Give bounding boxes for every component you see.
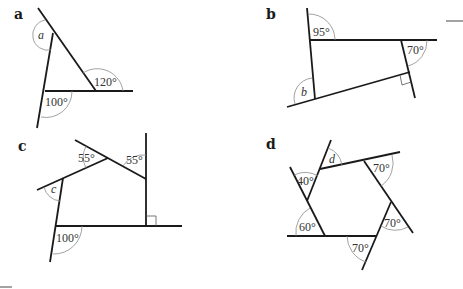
edge: [37, 158, 108, 190]
edge: [307, 140, 331, 201]
diagram-c: c 55° 55° c 100°: [18, 133, 182, 262]
part-label-a: a: [14, 6, 23, 22]
angle-label-70c: 70°: [384, 216, 401, 230]
angle-label-40: 40°: [297, 174, 314, 188]
part-label-c: c: [18, 138, 27, 154]
edge: [38, 8, 96, 91]
angle-label-d: d: [329, 152, 336, 166]
angle-label-55b: 55°: [126, 153, 143, 167]
angle-label-a: a: [38, 28, 44, 42]
angle-label-55a: 55°: [78, 151, 95, 165]
diagram-b: b 95° 70° b: [266, 6, 437, 107]
angle-label-70: 70°: [407, 43, 424, 57]
angle-label-60: 60°: [299, 220, 316, 234]
angle-label-70b: 70°: [352, 241, 369, 255]
angle-label-100: 100°: [45, 95, 68, 109]
right-angle-mark: [146, 216, 156, 226]
exterior-angles-figure: a a 120° 100° b 95° 70° b c 55° 55°: [0, 0, 463, 289]
diagram-d: d d 70° 40° 60° 70° 70°: [266, 136, 413, 270]
edge: [307, 8, 315, 99]
part-label-d: d: [266, 136, 276, 152]
angle-label-100: 100°: [56, 231, 79, 245]
diagram-a: a a 120° 100°: [14, 6, 133, 128]
angle-label-95: 95°: [313, 25, 330, 39]
angle-label-b: b: [301, 85, 307, 99]
part-label-b: b: [266, 6, 276, 22]
angle-label-70a: 70°: [373, 161, 390, 175]
angle-label-120: 120°: [94, 75, 117, 89]
angle-label-c: c: [51, 182, 57, 196]
